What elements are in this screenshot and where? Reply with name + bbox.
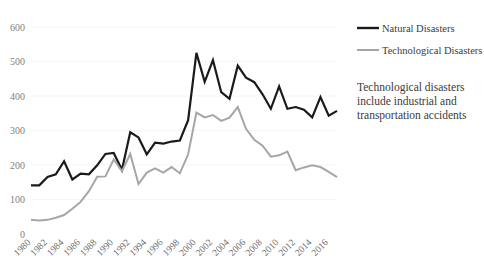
x-tick-label: 1992 (111, 237, 132, 258)
y-axis-labels: 0100200300400500600 (10, 22, 25, 240)
line-chart: 0100200300400500600198019821984198619881… (0, 0, 484, 273)
x-tick-label: 2012 (277, 237, 298, 258)
note-line: Technological disasters (357, 81, 465, 94)
series-group (31, 53, 337, 221)
x-tick-label: 1986 (62, 237, 83, 258)
x-tick-label: 1984 (45, 237, 66, 258)
x-tick-label: 2016 (310, 237, 331, 258)
x-tick-label: 2002 (194, 237, 215, 258)
y-tick-label: 200 (10, 160, 25, 171)
y-tick-label: 600 (10, 22, 25, 33)
gridlines (31, 27, 337, 200)
legend-label: Technological Disasters (382, 45, 482, 56)
x-tick-label: 2008 (243, 237, 264, 258)
technological-note: Technological disastersinclude industria… (357, 81, 467, 122)
x-tick-label: 2010 (260, 237, 281, 258)
x-tick-label: 1980 (12, 237, 33, 258)
x-tick-label: 1998 (161, 237, 182, 258)
x-tick-label: 2014 (293, 237, 314, 258)
x-tick-label: 2006 (227, 237, 248, 258)
x-tick-label: 1996 (144, 237, 165, 258)
legend-label: Natural Disasters (382, 23, 455, 34)
series-line-technological-disasters (31, 107, 337, 220)
x-axis-labels: 1980198219841986198819901992199419961998… (12, 237, 330, 258)
x-tick-label: 1988 (78, 237, 99, 258)
x-tick-label: 1990 (95, 237, 116, 258)
note-line: include industrial and (357, 95, 457, 107)
x-tick-label: 2000 (177, 237, 198, 258)
x-tick-label: 2004 (210, 237, 231, 258)
note-line: transportation accidents (357, 109, 467, 122)
y-tick-label: 100 (10, 194, 25, 205)
y-tick-label: 300 (10, 125, 25, 136)
y-tick-label: 400 (10, 91, 25, 102)
x-tick-label: 1982 (28, 237, 49, 258)
legend: Natural DisastersTechnological Disasters (357, 23, 482, 56)
y-tick-label: 500 (10, 56, 25, 67)
disaster-trends-figure: 0100200300400500600198019821984198619881… (0, 0, 484, 273)
x-tick-label: 1994 (128, 237, 149, 258)
